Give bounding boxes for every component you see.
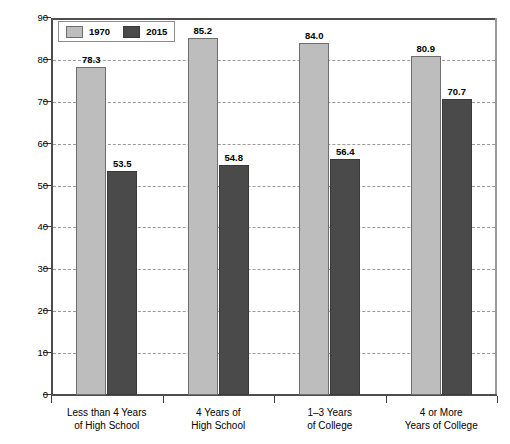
category-label-line2: High School: [153, 419, 283, 432]
bar-2015-3: [442, 99, 472, 395]
y-tick-label-20: 20: [18, 306, 48, 316]
category-label-line1: Less than 4 Years: [67, 407, 147, 418]
bar-value-2015-1: 54.8: [208, 152, 260, 163]
plot-frame-right: [495, 18, 497, 396]
x-tick-mark-2: [274, 396, 275, 403]
bar-2015-1: [219, 165, 249, 395]
y-tick-label-80: 80: [18, 55, 48, 65]
y-axis-line: [51, 18, 53, 396]
y-tick-label-90: 90: [18, 13, 48, 23]
category-label-0: Less than 4 Yearsof High School: [42, 406, 172, 432]
category-label-line1: 1–3 Years: [308, 407, 353, 418]
x-tick-mark-0: [51, 396, 52, 403]
bar-1970-0: [76, 67, 106, 395]
category-label-line2: of High School: [42, 419, 172, 432]
y-tick-label-60: 60: [18, 139, 48, 149]
plot-frame-top: [51, 18, 497, 20]
bar-value-2015-0: 53.5: [96, 158, 148, 169]
bar-2015-2: [330, 159, 360, 395]
y-tick-label-50: 50: [18, 181, 48, 191]
category-label-1: 4 Years ofHigh School: [153, 406, 283, 432]
y-tick-label-10: 10: [18, 348, 48, 358]
bar-value-1970-3: 80.9: [400, 43, 452, 54]
bar-value-1970-2: 84.0: [288, 30, 340, 41]
x-tick-mark-end: [497, 396, 498, 403]
x-tick-mark-3: [386, 396, 387, 403]
bar-1970-3: [411, 56, 441, 395]
category-label-2: 1–3 Yearsof College: [265, 406, 395, 432]
bar-1970-2: [299, 43, 329, 395]
bar-chart: Percent 0102030405060708090 78.353.585.2…: [0, 0, 510, 444]
category-label-line1: 4 or More: [420, 407, 463, 418]
category-label-line2: Years of College: [376, 419, 506, 432]
bar-2015-0: [107, 171, 137, 395]
chart-legend: 1970 2015: [58, 21, 175, 42]
bar-1970-1: [188, 38, 218, 395]
bar-value-1970-0: 78.3: [65, 54, 117, 65]
category-label-line1: 4 Years of: [196, 407, 240, 418]
bar-value-1970-1: 85.2: [177, 25, 229, 36]
y-tick-label-70: 70: [18, 97, 48, 107]
category-label-3: 4 or MoreYears of College: [376, 406, 506, 432]
legend-swatch-2015-icon: [123, 26, 140, 38]
bar-value-2015-2: 56.4: [319, 146, 371, 157]
y-tick-label-0: 0: [18, 390, 48, 400]
y-tick-label-40: 40: [18, 222, 48, 232]
y-tick-label-30: 30: [18, 264, 48, 274]
legend-swatch-1970-icon: [66, 26, 83, 38]
legend-label-2015: 2015: [146, 26, 167, 37]
bar-value-2015-3: 70.7: [431, 86, 483, 97]
x-tick-mark-1: [163, 396, 164, 403]
legend-entry-2015: 2015: [123, 26, 167, 38]
legend-label-1970: 1970: [89, 26, 110, 37]
category-label-line2: of College: [265, 419, 395, 432]
legend-entry-1970: 1970: [66, 26, 110, 38]
